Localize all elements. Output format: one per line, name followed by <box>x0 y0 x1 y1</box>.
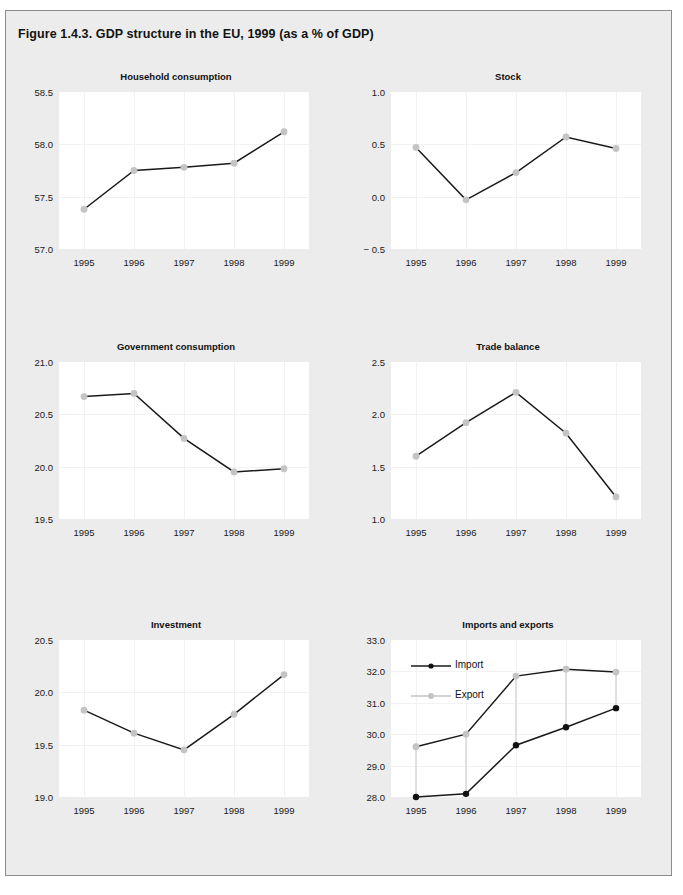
data-point-marker <box>281 128 288 135</box>
data-point-marker <box>463 731 470 738</box>
data-point-marker <box>181 747 188 754</box>
x-axis-tick-label: 1997 <box>505 257 526 268</box>
figure-title: Figure 1.4.3. GDP structure in the EU, 1… <box>18 27 374 41</box>
x-axis-tick-label: 1998 <box>555 257 576 268</box>
y-axis-tick-label: 19.5 <box>35 514 54 525</box>
chart-title: Stock <box>358 71 658 82</box>
data-point-marker <box>231 160 238 167</box>
chart-title: Household consumption <box>26 71 326 82</box>
data-point-marker <box>281 465 288 472</box>
y-axis-tick-label: 30.0 <box>367 729 386 740</box>
x-axis-tick-label: 1998 <box>555 805 576 816</box>
data-point-marker <box>231 469 238 476</box>
y-axis-tick-label: 20.5 <box>35 635 54 646</box>
chart-panel-trade-balance: Trade balance1.01.52.02.5199519961997199… <box>358 341 658 556</box>
x-axis-tick-label: 1998 <box>223 527 244 538</box>
x-axis-tick-label: 1999 <box>273 527 294 538</box>
x-axis-tick-label: 1996 <box>455 805 476 816</box>
y-axis-tick-label: 21.0 <box>35 357 54 368</box>
x-axis-tick-label: 1997 <box>173 805 194 816</box>
data-point-marker <box>81 393 88 400</box>
data-point-marker <box>463 791 469 797</box>
data-point-marker <box>181 164 188 171</box>
y-axis-tick-label: 20.0 <box>35 687 54 698</box>
data-point-marker <box>563 134 570 141</box>
x-axis-tick-label: 1999 <box>273 257 294 268</box>
chart-title: Trade balance <box>358 341 658 352</box>
chart-title: Investment <box>26 619 326 630</box>
x-axis-tick-label: 1995 <box>405 805 426 816</box>
x-axis-tick-label: 1996 <box>455 527 476 538</box>
y-axis-tick-label: − 0.5 <box>364 244 385 255</box>
data-point-marker <box>613 145 620 152</box>
x-axis-tick-label: 1995 <box>73 527 94 538</box>
chart-panel-stock: Stock− 0.50.00.51.019951996199719981999 <box>358 71 658 286</box>
y-axis-tick-label: 32.0 <box>367 666 386 677</box>
chart-title: Imports and exports <box>358 619 658 630</box>
y-axis-tick-label: 2.5 <box>372 357 385 368</box>
y-axis-tick-label: 19.0 <box>35 792 54 803</box>
x-axis-tick-label: 1999 <box>605 527 626 538</box>
x-axis-tick-label: 1998 <box>223 257 244 268</box>
data-point-marker <box>413 794 419 800</box>
x-axis-tick-label: 1998 <box>223 805 244 816</box>
data-point-marker <box>563 430 570 437</box>
y-axis-tick-label: 20.0 <box>35 461 54 472</box>
series-layer <box>59 92 309 249</box>
data-point-marker <box>81 707 88 714</box>
series-layer <box>59 362 309 519</box>
data-point-marker <box>131 730 138 737</box>
x-axis-tick-label: 1999 <box>273 805 294 816</box>
data-point-marker <box>413 743 420 750</box>
data-point-marker <box>281 671 288 678</box>
y-axis-tick-label: 0.5 <box>372 139 385 150</box>
data-point-marker <box>513 742 519 748</box>
series-layer <box>59 640 309 797</box>
data-point-marker <box>181 435 188 442</box>
plot-area: ImportExport <box>391 640 641 797</box>
series-line <box>84 675 284 750</box>
data-point-marker <box>613 705 619 711</box>
y-axis-tick-label: 57.5 <box>35 191 54 202</box>
series-layer <box>391 362 641 519</box>
x-axis-tick-label: 1995 <box>405 257 426 268</box>
y-axis-tick-label: 1.0 <box>372 514 385 525</box>
x-axis-tick-label: 1997 <box>173 257 194 268</box>
x-axis-tick-label: 1998 <box>555 527 576 538</box>
chart-panel-government-consumption: Government consumption19.520.020.521.019… <box>26 341 326 556</box>
series-line <box>416 137 616 200</box>
x-axis-tick-label: 1995 <box>73 805 94 816</box>
data-point-marker <box>563 724 569 730</box>
x-axis-tick-label: 1996 <box>123 805 144 816</box>
plot-area <box>391 362 641 519</box>
data-point-marker <box>413 453 420 460</box>
data-point-marker <box>513 169 520 176</box>
data-point-marker <box>231 711 238 718</box>
data-point-marker <box>131 167 138 174</box>
data-point-marker <box>613 494 620 501</box>
chart-title: Government consumption <box>26 341 326 352</box>
data-point-marker <box>463 196 470 203</box>
data-point-marker <box>81 206 88 213</box>
legend-label-import: Import <box>455 659 483 670</box>
legend-label-export: Export <box>455 689 484 700</box>
data-point-marker <box>613 669 620 676</box>
data-point-marker <box>513 389 520 396</box>
plot-area <box>59 92 309 249</box>
x-axis-tick-label: 1996 <box>123 257 144 268</box>
x-axis-tick-label: 1995 <box>405 527 426 538</box>
y-axis-tick-label: 58.0 <box>35 139 54 150</box>
y-axis-tick-label: 1.5 <box>372 461 385 472</box>
x-axis-tick-label: 1997 <box>505 527 526 538</box>
x-axis-tick-label: 1997 <box>173 527 194 538</box>
series-layer <box>391 92 641 249</box>
x-axis-tick-label: 1997 <box>505 805 526 816</box>
series-line <box>416 392 616 497</box>
legend-swatch-import <box>409 660 453 672</box>
y-axis-tick-label: 0.0 <box>372 191 385 202</box>
y-axis-tick-label: 1.0 <box>372 87 385 98</box>
x-axis-tick-label: 1996 <box>123 527 144 538</box>
figure-frame: Figure 1.4.3. GDP structure in the EU, 1… <box>5 10 672 876</box>
plot-area <box>391 92 641 249</box>
chart-panel-household-consumption: Household consumption57.057.558.058.5199… <box>26 71 326 286</box>
